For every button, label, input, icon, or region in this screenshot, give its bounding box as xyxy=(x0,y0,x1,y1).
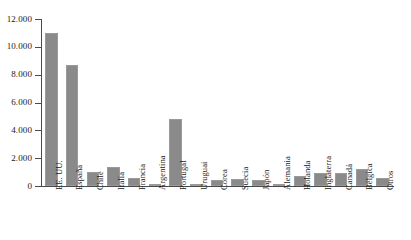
y-axis-tick-label: 10.000 xyxy=(7,42,32,51)
bar-slot xyxy=(211,19,224,186)
x-axis-line xyxy=(41,186,394,187)
bar-slot xyxy=(128,19,141,186)
bar-chart: 02.0004.0006.0008.00010.00012.000 EE. UU… xyxy=(0,0,411,240)
bar-slot xyxy=(87,19,100,186)
x-axis-tick-label: Otros xyxy=(386,171,395,190)
x-axis-tick-label: Alemania xyxy=(283,156,292,190)
x-axis-tick-label: Chile xyxy=(96,171,105,190)
x-axis-tick-label: Corea xyxy=(220,169,229,190)
bar-slot xyxy=(107,19,120,186)
y-axis-tick-label: 12.000 xyxy=(7,15,32,24)
plot-area xyxy=(41,19,393,186)
x-axis-tick-label: Bélgica xyxy=(365,163,374,190)
x-axis-tick-label: Holanda xyxy=(303,161,312,191)
bar-slot xyxy=(252,19,265,186)
x-axis-tick-label: Canadá xyxy=(345,164,354,190)
x-axis-tick-label: Japón xyxy=(262,170,271,190)
x-axis-tick-label: EE. UU. xyxy=(55,160,64,190)
x-axis-tick-label: Portugal xyxy=(179,160,188,190)
x-axis-tick-label: Francia xyxy=(138,164,147,190)
x-axis-tick-label: Suecia xyxy=(241,167,250,190)
y-axis-tick xyxy=(35,186,41,187)
x-axis-tick-label: Italia xyxy=(117,172,126,190)
bar-slot xyxy=(335,19,348,186)
bar-slot xyxy=(66,19,79,186)
bar-slot xyxy=(356,19,369,186)
x-axis-tick-label: Uruguai xyxy=(200,161,209,190)
x-axis-tick-label: España xyxy=(75,165,84,190)
x-axis-tick-label: Argentina xyxy=(158,155,167,190)
y-axis-tick-label: 6.000 xyxy=(11,98,32,107)
x-axis-tick-label: Inglaterra xyxy=(324,156,333,190)
bar-slot xyxy=(231,19,244,186)
y-axis-tick-label: 0 xyxy=(27,182,32,191)
y-axis-tick-label: 2.000 xyxy=(11,154,32,163)
bar-slot xyxy=(376,19,389,186)
y-axis-tick-label: 4.000 xyxy=(11,126,32,135)
y-axis-tick-label: 8.000 xyxy=(11,70,32,79)
